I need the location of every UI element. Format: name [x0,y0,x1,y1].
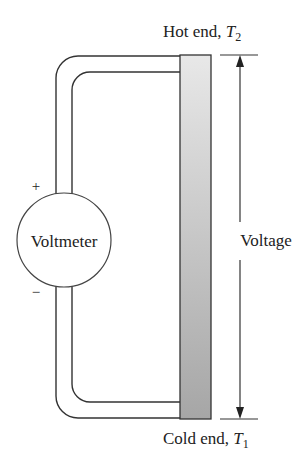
outer-wire-bottom [56,286,180,418]
arrow-down-icon [236,407,244,419]
outer-wire-top [56,56,180,194]
cold-end-label: Cold end, T1 [163,429,249,451]
voltmeter-label: Voltmeter [31,232,98,251]
inner-wire-top [72,72,180,194]
plus-sign: + [32,178,40,194]
inner-wire-bottom [72,286,180,402]
hot-end-label: Hot end, T2 [163,22,241,44]
metal-bar [180,55,211,419]
voltage-label: Voltage [240,231,292,250]
thermocouple-diagram: Voltmeter + − Voltage Hot end, T2 Cold e… [0,0,304,465]
minus-sign: − [32,284,40,300]
arrow-up-icon [236,55,244,67]
